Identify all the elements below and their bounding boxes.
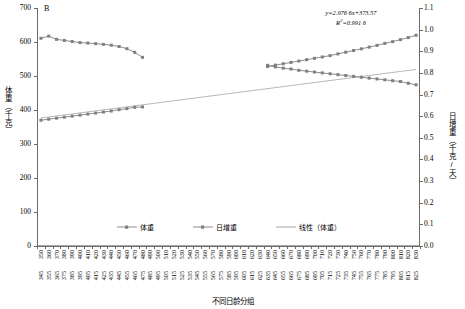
- data-point-marker: [305, 70, 308, 73]
- x-axis-tick-label-upper: 380: [61, 250, 67, 259]
- left-axis-tick-label: 200: [5, 174, 31, 182]
- data-point-marker: [290, 68, 293, 71]
- data-point-marker: [305, 58, 308, 61]
- right-axis-tick: [420, 73, 423, 74]
- x-axis-tick-label-lower: 385: [69, 271, 75, 280]
- x-axis-label-group: 670665: [287, 250, 295, 292]
- x-axis-tick: [240, 246, 241, 249]
- x-axis-tick-label-upper: 520: [171, 250, 177, 259]
- x-axis-tick-label-upper: 630: [257, 250, 263, 259]
- x-axis-tick: [420, 246, 421, 249]
- data-point-marker: [39, 37, 42, 40]
- x-axis-tick-label-lower: 615: [249, 271, 255, 280]
- x-axis-tick: [92, 246, 93, 249]
- x-axis-tick-label-upper: 540: [187, 250, 193, 259]
- x-axis-tick-label-upper: 430: [101, 250, 107, 259]
- data-point-marker: [63, 116, 66, 119]
- data-point-marker: [415, 83, 418, 86]
- data-point-marker: [297, 69, 300, 72]
- x-axis-tick: [139, 246, 140, 249]
- x-axis-tick-label-lower: 455: [124, 271, 130, 280]
- x-axis-tick: [318, 246, 319, 249]
- x-axis-tick: [154, 246, 155, 249]
- x-axis-label-group: 380375: [60, 250, 68, 292]
- x-axis-tick-label-lower: 715: [327, 271, 333, 280]
- data-point-marker: [344, 51, 347, 54]
- x-axis-label-group: 820815: [404, 250, 412, 292]
- x-axis-tick-label-lower: 505: [163, 271, 169, 280]
- x-axis-tick-label-upper: 700: [312, 250, 318, 259]
- chart-legend: 体重日增重线性（体重）: [37, 222, 420, 232]
- x-axis-label-group: 460455: [123, 250, 131, 292]
- data-point-marker: [86, 42, 89, 45]
- x-axis-label-group: 570565: [209, 250, 217, 292]
- x-axis-label-group: 550545: [193, 250, 201, 292]
- right-axis-tick-label: 1.1: [424, 4, 433, 12]
- x-axis-tick-label-lower: 525: [179, 271, 185, 280]
- data-point-marker: [344, 74, 347, 77]
- x-axis-tick-label-upper: 510: [163, 250, 169, 259]
- data-point-marker: [94, 42, 97, 45]
- data-point-marker: [266, 64, 269, 67]
- x-axis-tick-label-upper: 820: [405, 250, 411, 259]
- x-axis-tick: [170, 246, 171, 249]
- x-axis-tick: [389, 246, 390, 249]
- x-axis-tick-label-upper: 560: [202, 250, 208, 259]
- x-axis-tick-label-lower: 675: [296, 271, 302, 280]
- x-axis-tick-label-upper: 580: [218, 250, 224, 259]
- right-axis-tick: [420, 159, 423, 160]
- data-point-marker: [110, 44, 113, 47]
- legend-line-icon: [275, 223, 297, 232]
- x-axis-label-group: 350345: [37, 250, 45, 292]
- x-axis-label-group: 440435: [107, 250, 115, 292]
- x-axis-tick-label-upper: 800: [390, 250, 396, 259]
- data-point-marker: [352, 75, 355, 78]
- legend-label: 线性（体重）: [299, 222, 341, 232]
- right-axis-tick: [420, 181, 423, 182]
- x-axis-tick-label-lower: 745: [351, 271, 357, 280]
- legend-marker-line-icon: [192, 223, 214, 232]
- x-axis-tick: [53, 246, 54, 249]
- right-axis-tick-label: 0.3: [424, 177, 433, 185]
- x-axis-tick-label-lower: 365: [54, 271, 60, 280]
- x-axis-label-group: 800795: [389, 250, 397, 292]
- right-axis-tick-label: 0.5: [424, 134, 433, 142]
- x-axis-tick: [232, 246, 233, 249]
- x-axis-tick-label-lower: 415: [93, 271, 99, 280]
- x-axis-tick: [248, 246, 249, 249]
- right-axis-tick: [420, 138, 423, 139]
- x-axis-tick: [271, 246, 272, 249]
- x-axis-tick: [365, 246, 366, 249]
- x-axis-label-group: 810805: [397, 250, 405, 292]
- data-point-marker: [360, 47, 363, 50]
- x-axis-tick: [37, 246, 38, 249]
- x-axis-label-group: 760755: [357, 250, 365, 292]
- data-point-marker: [133, 106, 136, 109]
- data-point-marker: [118, 108, 121, 111]
- data-point-marker: [141, 105, 144, 108]
- x-axis-tick-label-upper: 770: [366, 250, 372, 259]
- data-point-marker: [102, 111, 105, 114]
- data-point-marker: [376, 77, 379, 80]
- x-axis-tick-label-upper: 600: [233, 250, 239, 259]
- x-axis-label-group: 780775: [373, 250, 381, 292]
- x-axis-tick-label-lower: 485: [147, 271, 153, 280]
- legend-item: 体重: [116, 222, 154, 232]
- x-axis-tick: [381, 246, 382, 249]
- x-axis-tick: [303, 246, 304, 249]
- x-axis-tick-label-lower: 535: [187, 271, 193, 280]
- x-axis-tick-label-upper: 620: [249, 250, 255, 259]
- x-axis-label-group: 560555: [201, 250, 209, 292]
- x-axis-tick-label-lower: 425: [101, 271, 107, 280]
- x-axis-tick: [186, 246, 187, 249]
- x-axis-tick-label-lower: 775: [374, 271, 380, 280]
- x-axis-tick-label-upper: 750: [351, 250, 357, 259]
- x-axis-tick-label-upper: 400: [77, 250, 83, 259]
- bottom-axis-labels: 3503453603553703653803753903854003954104…: [37, 250, 420, 292]
- data-point-marker: [55, 38, 58, 41]
- x-axis-tick-label-lower: 345: [38, 271, 44, 280]
- x-axis-tick-label-upper: 590: [226, 250, 232, 259]
- x-axis-tick-label-lower: 795: [390, 271, 396, 280]
- x-axis-tick-label-lower: 725: [335, 271, 341, 280]
- data-point-marker: [321, 71, 324, 74]
